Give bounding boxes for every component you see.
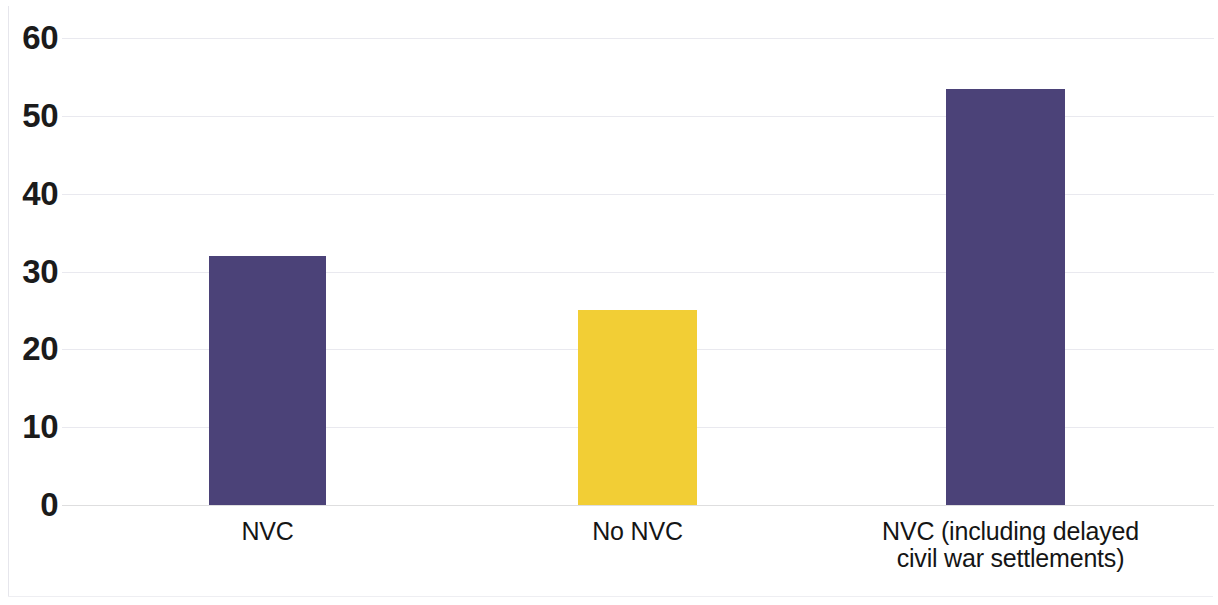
gridline-0 — [62, 505, 1214, 506]
bar[interactable] — [946, 89, 1065, 505]
plot-area: 6050403020100 NVCNo NVCNVC (including de… — [0, 0, 1218, 605]
bar[interactable] — [209, 256, 326, 505]
gridline-60 — [62, 38, 1214, 39]
y-axis-tick-label: 30 — [0, 255, 58, 288]
x-axis-category-label: NVC (including delayed civil war settlem… — [838, 518, 1183, 572]
bar[interactable] — [578, 310, 697, 505]
y-axis-tick-label: 20 — [0, 332, 58, 365]
y-axis-tick-label: 60 — [0, 21, 58, 54]
y-axis-tick-label: 50 — [0, 99, 58, 132]
x-axis-category-label: NVC — [150, 518, 385, 545]
x-axis-category-label: No NVC — [520, 518, 755, 545]
y-axis-tick-label: 0 — [0, 488, 58, 521]
y-axis-tick-label: 40 — [0, 177, 58, 210]
y-axis-tick-label: 10 — [0, 410, 58, 443]
bar-chart: 6050403020100 NVCNo NVCNVC (including de… — [0, 0, 1218, 605]
